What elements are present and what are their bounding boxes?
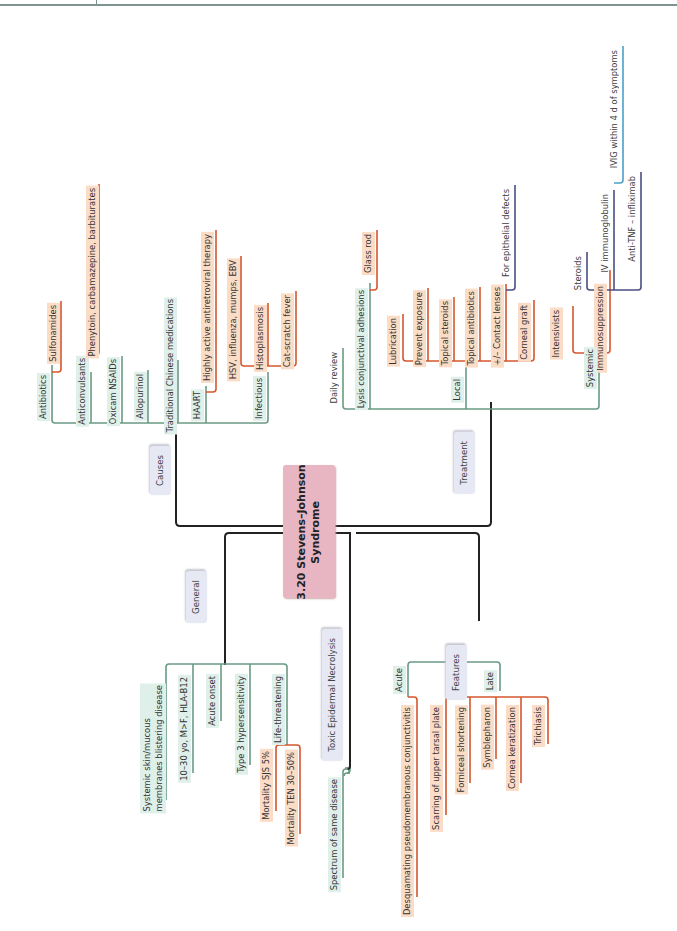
treatment-systemic: Systemic xyxy=(584,347,597,389)
treatment-intensivists: Intensivists xyxy=(550,308,563,360)
features-trichiasis: Trichiasis xyxy=(532,705,545,747)
cause-allopurinol: Allopurinol xyxy=(134,372,147,421)
features-acute: Acute xyxy=(393,666,406,694)
features-symblepharon: Symblepharon xyxy=(481,705,494,770)
treatment-topical-steroids: Topical steroids xyxy=(439,299,452,367)
features-late: Late xyxy=(484,670,497,692)
cause-hsv-influenza: HSV, influenza, mumps, EBV xyxy=(227,258,240,381)
features-cornea-keratization: Cornea keratization xyxy=(506,705,519,791)
cause-highly-active-antiretroviral-therapy: Highly active antiretroviral therapy xyxy=(201,232,214,383)
treatment-glass-rod: Glass rod xyxy=(362,232,375,275)
general-acute-onset: Acute onset xyxy=(206,674,219,728)
treatment-local: Local xyxy=(451,377,464,403)
central-topic-title: 3.20 Stevens–JohnsonSyndrome xyxy=(295,464,323,599)
cause-sulfonamides: Sulfonamides xyxy=(47,303,60,364)
cause-infectious: Infectious xyxy=(253,376,266,421)
general-mortality-sjs: Mortality SJS 5% xyxy=(260,749,273,822)
treatment-steroids: Steroids xyxy=(572,254,585,292)
cause-antibiotics: Antibiotics xyxy=(37,373,50,421)
treatment-for-epithelial-defects: For epithelial defects xyxy=(500,187,513,279)
central-topic[interactable]: 3.20 Stevens–JohnsonSyndrome xyxy=(283,465,335,598)
cause-haart: HAART xyxy=(191,389,204,421)
ten-spectrum-of-same-disease: Spectrum of same disease xyxy=(328,777,341,892)
treatment-ivig-within-4d: IVIG within 4 d of symptoms xyxy=(608,48,621,170)
category-general[interactable]: General xyxy=(186,571,207,623)
treatment-corneal-graft: Corneal graft xyxy=(518,303,531,362)
features-desquamating-conjunctivitis: Desquamating pseudomembranous conjunctiv… xyxy=(401,705,414,917)
treatment-topical-antibiotics: Topical antibiotics xyxy=(465,289,478,368)
general-life-threatening: Life-threatening xyxy=(272,674,285,745)
cause-histoplasmosis: Histoplasmosis xyxy=(254,305,267,372)
category-treatment[interactable]: Treatment xyxy=(454,432,475,494)
features-forniceal-shortening: Forniceal shortening xyxy=(455,705,468,794)
features-trunk xyxy=(356,533,479,621)
category-features[interactable]: Features xyxy=(446,645,467,700)
category-toxic-epidermal-necrolysis[interactable]: Toxic Epidermal Necrolysis xyxy=(322,629,343,761)
treatment-contact-lenses: +/– Contact lenses xyxy=(491,285,504,368)
features-scarring-upper-tarsal-plate: Scarring of upper tarsal plate xyxy=(430,705,443,832)
cause-cat-scratch-fever: Cat-scratch fever xyxy=(281,293,294,369)
treatment-prevent-exposure: Prevent exposure xyxy=(413,290,426,367)
general-type3-hypersensitivity: Type 3 hypersensitivity xyxy=(235,674,248,775)
category-causes[interactable]: Causes xyxy=(150,446,171,495)
general-systemic-blistering-disease: Systemic skin/mucousmembranes blistering… xyxy=(140,683,166,813)
treatment-daily-review: Daily review xyxy=(328,350,341,406)
treatment-lubrication: Lubrication xyxy=(387,316,400,367)
general-mortality-ten: Mortality TEN 30–50% xyxy=(285,750,298,847)
cause-anticonvulsants: Anticonvulsants xyxy=(76,356,89,427)
treatment-anti-tnf-infliximab: Anti-TNF – infliximab xyxy=(626,174,639,264)
cause-phenytoin: Phenytoin, carbamazepine, barbiturates xyxy=(86,186,99,359)
general-age-sex-hla: 10–30 yo, M>F, HLA-B12 xyxy=(178,675,191,783)
cause-oxicam-nsaids: Oxicam NSAIDs xyxy=(107,357,120,426)
treatment-iv-immunoglobulin: IV immunoglobulin xyxy=(599,192,612,275)
treatment-lysis-conjunctival-adhesions: Lysis conjunctival adhesions xyxy=(355,288,368,410)
cause-traditional-chinese-medications: Traditional Chinese medications xyxy=(164,297,177,434)
